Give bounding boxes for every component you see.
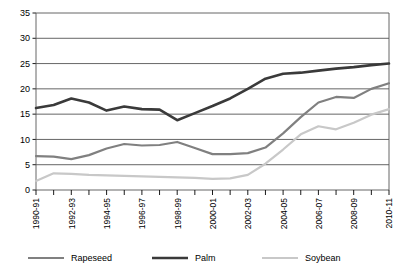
y-axis-tick-label: 5 <box>25 160 30 170</box>
x-axis-tick-label: 1998-99 <box>173 198 183 229</box>
x-axis-tick-label: 2004-05 <box>279 198 289 229</box>
x-axis-tick-label: 2008-09 <box>349 198 359 229</box>
series-line-palm <box>36 64 389 121</box>
legend-label-rapeseed: Rapeseed <box>71 253 112 263</box>
legend-label-palm: Palm <box>195 253 216 263</box>
y-axis-tick-label: 10 <box>20 135 30 145</box>
x-axis-tick-label: 2010-11 <box>384 198 394 229</box>
y-axis-tick-label: 30 <box>20 33 30 43</box>
x-axis-tick-label: 2000-01 <box>208 198 218 229</box>
x-axis-tick-label: 2006-07 <box>314 198 324 229</box>
legend-label-soybean: Soybean <box>305 253 341 263</box>
line-chart: 051015202530351990-911992-931994-951996-… <box>0 0 401 272</box>
y-axis-tick-label: 0 <box>25 185 30 195</box>
y-axis-tick-label: 25 <box>20 59 30 69</box>
x-axis-tick-label: 1994-95 <box>102 198 112 229</box>
series-line-rapeseed <box>36 83 389 159</box>
y-axis-tick-label: 35 <box>20 8 30 18</box>
x-axis-tick-label: 2002-03 <box>243 198 253 229</box>
x-axis-tick-label: 1990-91 <box>31 198 41 229</box>
x-axis-tick-label: 1996-97 <box>137 198 147 229</box>
x-axis-tick-label: 1992-93 <box>67 198 77 229</box>
chart-canvas: 051015202530351990-911992-931994-951996-… <box>0 0 401 272</box>
y-axis-tick-label: 15 <box>20 109 30 119</box>
y-axis-tick-label: 20 <box>20 84 30 94</box>
series-line-soybean <box>36 109 389 181</box>
